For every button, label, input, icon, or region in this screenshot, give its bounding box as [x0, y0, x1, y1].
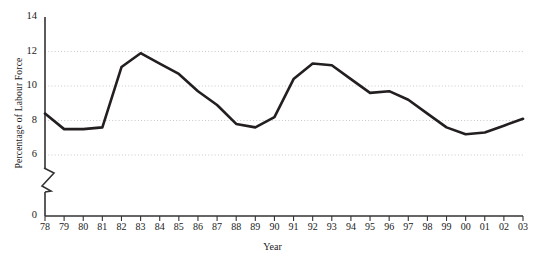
- y-axis-tick-label: 0: [15, 210, 37, 221]
- y-axis-tick-label: 10: [15, 80, 37, 91]
- data-series: [45, 53, 523, 134]
- y-axis-tick-label: 14: [15, 11, 37, 22]
- axes: [45, 17, 523, 216]
- y-axis-tick-label: 12: [15, 46, 37, 57]
- axis-break-zigzag: [42, 168, 54, 192]
- series-line-unemployment-rate: [45, 53, 523, 134]
- y-axis-tick-label: 8: [15, 115, 37, 126]
- gridlines: [45, 52, 523, 156]
- x-axis-tick-label: 03: [511, 222, 535, 232]
- y-axis-tick-label: 6: [15, 149, 37, 160]
- chart-container: Percentage of Labour Force Year 06810121…: [0, 0, 545, 265]
- y-axis-break-icon: [42, 168, 54, 192]
